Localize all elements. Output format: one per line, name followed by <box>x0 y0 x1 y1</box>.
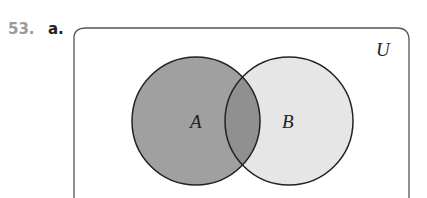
venn-diagram: U A B <box>0 0 427 198</box>
universal-label: U <box>376 39 391 60</box>
set-b-label: B <box>282 111 294 132</box>
set-a-label: A <box>188 111 202 132</box>
